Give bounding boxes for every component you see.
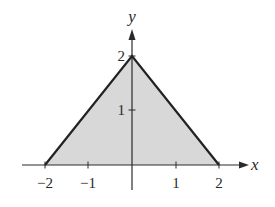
y-axis <box>129 29 136 190</box>
y-tick-label-2: 2 <box>118 48 126 64</box>
x-tick-label-2: 2 <box>215 175 223 191</box>
x-tick-label-1: 1 <box>172 175 180 191</box>
triangle-region-plot: −2 −1 1 2 1 2 x y <box>0 0 275 207</box>
y-axis-arrow-icon <box>129 29 136 40</box>
x-tick-label-neg1: −1 <box>80 175 96 191</box>
y-axis-label: y <box>126 7 136 26</box>
x-axis-label: x <box>250 155 259 174</box>
y-tick-label-1: 1 <box>118 102 126 118</box>
x-axis-arrow-icon <box>239 162 249 169</box>
x-tick-label-neg2: −2 <box>37 175 53 191</box>
